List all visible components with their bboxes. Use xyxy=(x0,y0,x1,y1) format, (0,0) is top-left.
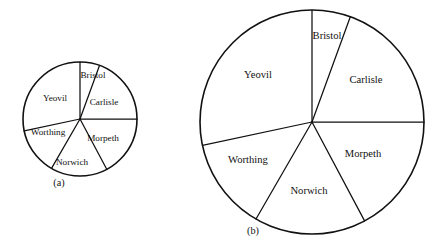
pie-a-label-bristol: Bristol xyxy=(80,70,105,80)
pie-b-label-bristol: Bristol xyxy=(313,30,342,41)
caption-b: (b) xyxy=(247,225,259,237)
pie-a-label-carlisle: Carlisle xyxy=(90,97,119,107)
pie-chart-a: BristolCarlisleMorpethNorwichWorthingYeo… xyxy=(23,62,137,176)
pie-a-label-worthing: Worthing xyxy=(31,127,66,137)
pie-chart-b: BristolCarlisleMorpethNorwichWorthingYeo… xyxy=(200,10,424,234)
pie-b-label-carlisle: Carlisle xyxy=(350,74,383,85)
pie-a-label-norwich: Norwich xyxy=(56,157,89,167)
pie-chart-figure: BristolCarlisleMorpethNorwichWorthingYeo… xyxy=(0,0,439,247)
pie-b-label-worthing: Worthing xyxy=(228,154,268,165)
pie-b-label-yeovil: Yeovil xyxy=(244,69,272,80)
pie-a-label-yeovil: Yeovil xyxy=(43,93,68,103)
pie-b-label-morpeth: Morpeth xyxy=(345,148,382,159)
pie-a-label-morpeth: Morpeth xyxy=(87,133,119,143)
caption-a: (a) xyxy=(53,177,64,189)
pie-b-label-norwich: Norwich xyxy=(290,185,328,196)
